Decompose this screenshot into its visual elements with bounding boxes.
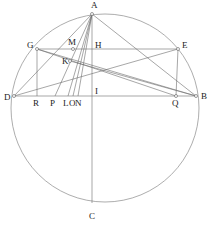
point-label-L: L [63, 98, 69, 108]
point-label-P: P [50, 98, 55, 108]
point-label-C: C [89, 211, 95, 221]
circumcircle [11, 14, 199, 202]
point-label-A: A [91, 0, 98, 10]
segment-AO [73, 14, 92, 96]
point-label-I: I [95, 86, 98, 96]
vertex-marker-layer [13, 13, 198, 98]
segment-layer [14, 14, 196, 203]
point-label-D: D [4, 92, 11, 102]
segment-EQ [176, 49, 178, 96]
segment-GB [37, 49, 196, 96]
point-label-R: R [33, 98, 39, 108]
vertex-marker-D [13, 95, 16, 98]
point-label-O: O [69, 98, 76, 108]
point-label-G: G [27, 40, 34, 50]
segment-GQ [37, 49, 176, 96]
point-label-M: M [68, 37, 76, 47]
segment-AP [55, 14, 92, 96]
geometry-canvas: ABCDEGHIKLMNOPQR [0, 0, 209, 227]
point-label-Q: Q [172, 98, 179, 108]
segment-AB [92, 14, 196, 96]
vertex-marker-A [91, 13, 94, 16]
point-label-layer: ABCDEGHIKLMNOPQR [4, 0, 207, 221]
vertex-marker-E [177, 48, 180, 51]
circumcircle-layer [11, 14, 199, 202]
vertex-marker-G [36, 48, 39, 51]
point-label-H: H [95, 40, 102, 50]
point-label-N: N [75, 98, 82, 108]
point-label-K: K [62, 56, 69, 66]
vertex-marker-K [69, 60, 72, 63]
vertex-marker-B [195, 95, 198, 98]
geometry-figure: ABCDEGHIKLMNOPQR [0, 0, 209, 227]
vertex-marker-M [72, 48, 75, 51]
point-label-B: B [201, 91, 207, 101]
point-label-E: E [182, 40, 188, 50]
